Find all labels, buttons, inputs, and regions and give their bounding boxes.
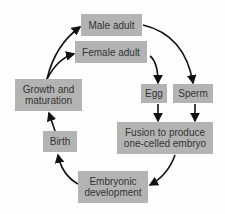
arrow-embryonic-to-birth xyxy=(58,155,78,184)
node-sperm: Sperm xyxy=(173,84,213,103)
node-egg: Egg xyxy=(141,84,167,103)
life-cycle-diagram: Male adult Female adult Growth and matur… xyxy=(0,0,225,214)
arrow-fusion-to-embryonic xyxy=(150,155,175,185)
node-female-adult: Female adult xyxy=(75,41,147,63)
arrow-female-to-egg xyxy=(150,56,158,83)
arrow-male-to-sperm xyxy=(143,25,193,83)
node-embryonic-development: Embryonic development xyxy=(78,171,148,203)
arrow-birth-to-growth xyxy=(49,113,55,131)
node-male-adult: Male adult xyxy=(81,14,142,36)
node-growth-and-maturation: Growth and maturation xyxy=(15,79,82,111)
node-birth: Birth xyxy=(43,131,77,152)
node-fusion: Fusion to produce one-celled embryo xyxy=(117,122,213,154)
